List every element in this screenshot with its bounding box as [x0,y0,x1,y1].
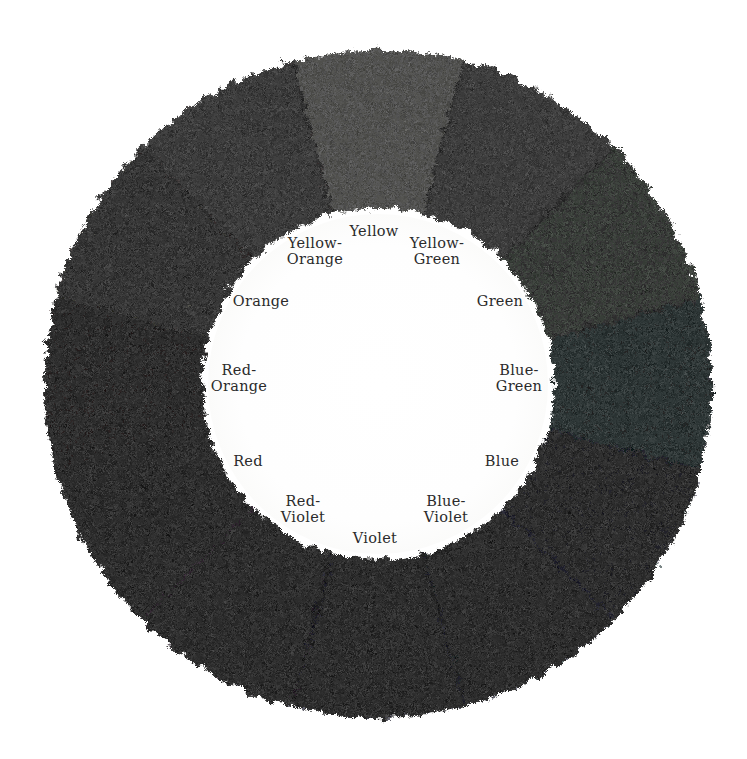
inner-hub [208,214,548,554]
color-wheel-graphic [0,0,747,759]
color-wheel-figure: YellowYellow- GreenGreenBlue- GreenBlueB… [0,0,747,759]
